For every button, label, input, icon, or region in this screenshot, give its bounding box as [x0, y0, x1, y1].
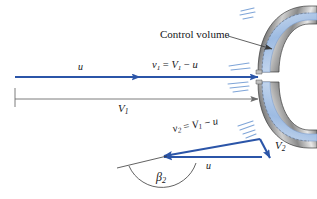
- v1-equals: =: [160, 59, 171, 70]
- pelton-bucket-velocity-diagram: Control volume u v1 = V1 − u V1 v2 = V1 …: [0, 0, 317, 199]
- V1-subscript: 1: [125, 107, 129, 116]
- V2-symbol: V: [275, 139, 282, 151]
- upper-splitter-tip: [256, 70, 262, 74]
- beta2-label: β2: [156, 171, 166, 185]
- u-label-bottom: u: [206, 161, 211, 171]
- V2-absolute-velocity-arrow: [260, 139, 270, 158]
- beta2-reference-line: [117, 156, 167, 168]
- beta2-subscript: 2: [162, 176, 166, 185]
- v1-minus: −: [181, 59, 192, 70]
- v1-rhs-term: u: [193, 59, 198, 70]
- lower-splitter-tip: [256, 80, 262, 84]
- V1-label: V1: [118, 103, 128, 115]
- upper-inlet-hatch-group: [240, 8, 255, 19]
- v1-equation-label: v1 = V1 − u: [152, 60, 198, 72]
- V2-subscript: 2: [282, 144, 286, 153]
- control-volume-label: Control volume: [160, 29, 229, 40]
- lower-outlet-hatch-group: [238, 121, 256, 138]
- u-label-top: u: [78, 62, 83, 72]
- V1-symbol: V: [118, 102, 125, 114]
- upper-bucket: [258, 6, 317, 72]
- V2-label: V2: [275, 140, 285, 152]
- v2-relative-velocity-arrow: [164, 139, 260, 156]
- lower-bucket: [258, 82, 317, 148]
